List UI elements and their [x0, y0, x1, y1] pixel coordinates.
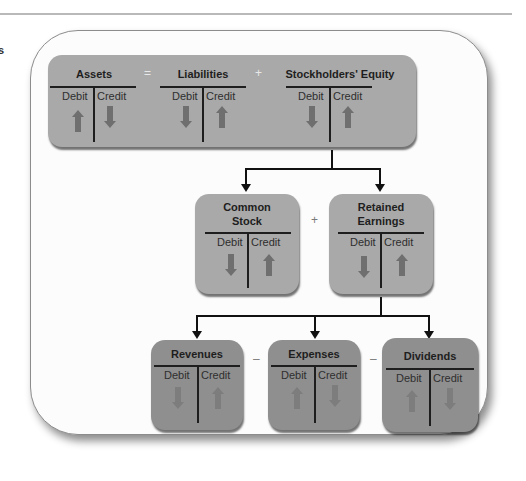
- arrow-up-icon: [72, 110, 84, 132]
- connector-line: [196, 315, 430, 317]
- t-account-divider: [247, 232, 249, 288]
- assets-t-account: Debit Credit: [50, 86, 136, 142]
- debit-label: Debit: [281, 369, 307, 381]
- t-account-divider: [197, 365, 199, 423]
- minus-operator: –: [370, 352, 377, 366]
- liabilities-t-account: Debit Credit: [160, 86, 246, 142]
- arrowhead-icon: [310, 331, 320, 339]
- assets-title: Assets: [50, 67, 138, 81]
- expenses-box: Expenses Debit Credit: [268, 340, 360, 430]
- arrow-down-icon: [444, 388, 456, 410]
- connector-line: [196, 315, 198, 331]
- connector-line: [314, 315, 316, 331]
- arrow-up-icon: [291, 387, 303, 409]
- debit-label: Debit: [164, 369, 190, 381]
- retained-earnings-t-account: Debit Credit: [338, 232, 424, 288]
- revenues-title: Revenues: [151, 347, 243, 361]
- dividends-t-account: Debit Credit: [386, 368, 474, 426]
- connector-line: [245, 168, 381, 170]
- equals-operator: =: [144, 66, 151, 80]
- common-stock-title-line2: Stock: [195, 214, 299, 228]
- arrow-up-icon: [406, 390, 418, 412]
- stockholders-equity-title: Stockholders' Equity: [274, 67, 406, 81]
- revenues-box: Revenues Debit Credit: [151, 340, 243, 430]
- credit-label: Credit: [433, 372, 462, 384]
- credit-label: Credit: [97, 90, 126, 102]
- debit-label: Debit: [217, 236, 243, 248]
- minus-operator: –: [253, 352, 260, 366]
- retained-earnings-title-line2: Earnings: [329, 214, 433, 228]
- top-divider: [0, 13, 512, 15]
- credit-label: Credit: [206, 90, 235, 102]
- retained-earnings-box: Retained Earnings Debit Credit: [329, 194, 433, 294]
- common-stock-box: Common Stock Debit Credit: [195, 194, 299, 294]
- arrow-down-icon: [306, 106, 318, 128]
- plus-operator: +: [311, 213, 318, 227]
- arrowhead-icon: [375, 184, 385, 192]
- arrow-down-icon: [225, 254, 237, 276]
- t-account-divider: [202, 86, 204, 142]
- debit-label: Debit: [62, 90, 88, 102]
- arrow-down-icon: [172, 387, 184, 409]
- edge-text-fragment: s: [0, 44, 4, 56]
- t-account-divider: [93, 86, 95, 142]
- arrow-up-icon: [396, 254, 408, 276]
- arrow-up-icon: [342, 106, 354, 128]
- arrow-down-icon: [104, 106, 116, 128]
- expenses-t-account: Debit Credit: [271, 365, 357, 423]
- plus-operator: +: [255, 66, 262, 80]
- connector-line: [379, 168, 381, 184]
- debit-label: Debit: [172, 90, 198, 102]
- accounting-equation-box: Assets Debit Credit = Liabilities Debit …: [48, 55, 416, 147]
- debit-label: Debit: [396, 372, 422, 384]
- arrow-down-icon: [329, 385, 341, 407]
- t-account-divider: [329, 86, 331, 142]
- stockholders-equity-t-account: Debit Credit: [286, 86, 372, 142]
- t-account-divider: [314, 365, 316, 423]
- credit-label: Credit: [384, 236, 413, 248]
- connector-line: [380, 297, 382, 316]
- connector-line: [428, 315, 430, 331]
- debit-label: Debit: [350, 236, 376, 248]
- dividends-box: Dividends Debit Credit: [382, 338, 478, 432]
- connector-line: [331, 150, 333, 169]
- retained-earnings-title-line1: Retained: [329, 200, 433, 214]
- revenues-t-account: Debit Credit: [154, 365, 240, 423]
- expenses-title: Expenses: [268, 347, 360, 361]
- dividends-title: Dividends: [382, 349, 478, 363]
- common-stock-t-account: Debit Credit: [205, 232, 291, 288]
- credit-label: Credit: [318, 369, 347, 381]
- arrowhead-icon: [192, 331, 202, 339]
- debit-label: Debit: [298, 90, 324, 102]
- arrow-down-icon: [180, 106, 192, 128]
- common-stock-title-line1: Common: [195, 200, 299, 214]
- connector-line: [245, 168, 247, 184]
- arrowhead-icon: [241, 184, 251, 192]
- arrow-down-icon: [358, 256, 370, 278]
- t-account-divider: [380, 232, 382, 288]
- arrow-up-icon: [212, 387, 224, 409]
- credit-label: Credit: [201, 369, 230, 381]
- arrow-up-icon: [216, 106, 228, 128]
- credit-label: Credit: [333, 90, 362, 102]
- credit-label: Credit: [251, 236, 280, 248]
- t-account-divider: [429, 368, 431, 426]
- liabilities-title: Liabilities: [160, 67, 246, 81]
- arrow-up-icon: [263, 254, 275, 276]
